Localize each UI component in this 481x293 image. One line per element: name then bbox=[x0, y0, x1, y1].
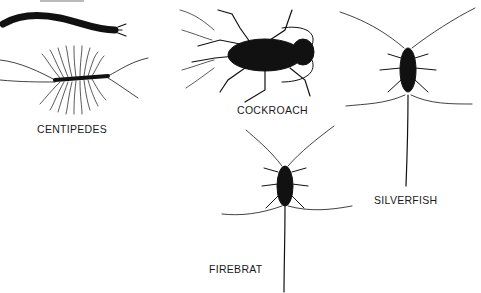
cockroach-drawing bbox=[180, 10, 314, 102]
silverfish-label: SILVERFISH bbox=[374, 194, 438, 206]
centipede-bottom-drawing bbox=[0, 46, 148, 114]
illustrations bbox=[0, 0, 481, 293]
centipedes-label: CENTIPEDES bbox=[37, 123, 107, 135]
firebrat-label: FIREBRAT bbox=[209, 263, 263, 275]
cropped-caption bbox=[40, 0, 84, 2]
centipede-top-drawing bbox=[3, 16, 126, 36]
cockroach-label: COCKROACH bbox=[237, 104, 308, 116]
silverfish-drawing bbox=[340, 8, 475, 186]
insect-illustration-figure: CENTIPEDES COCKROACH SILVERFISH FIREBRAT bbox=[0, 0, 481, 293]
